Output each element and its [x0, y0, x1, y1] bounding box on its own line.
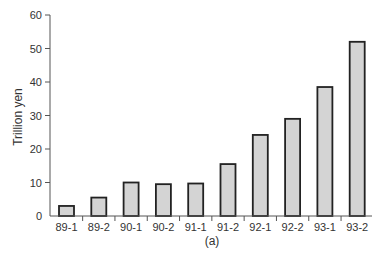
bar-92-1	[253, 135, 268, 216]
bar-90-2	[156, 184, 171, 216]
y-tick-label: 60	[30, 9, 42, 21]
bars	[59, 42, 365, 216]
bar-89-2	[91, 198, 106, 216]
x-axis: 89-189-290-190-291-191-292-192-293-193-2	[50, 216, 372, 233]
bar-89-1	[59, 206, 74, 216]
bar-90-1	[124, 183, 139, 217]
y-tick-label: 20	[30, 143, 42, 155]
bar-91-1	[188, 184, 203, 216]
y-axis-label: Trillion yen	[11, 88, 25, 146]
y-tick-label: 10	[30, 177, 42, 189]
x-tick-label: 93-2	[346, 221, 368, 233]
x-tick-label: 90-2	[152, 221, 174, 233]
x-tick-label: 92-1	[249, 221, 271, 233]
x-tick-label: 92-2	[282, 221, 304, 233]
x-tick-label: 89-1	[55, 221, 77, 233]
x-tick-label: 91-1	[185, 221, 207, 233]
x-tick-label: 89-2	[88, 221, 110, 233]
y-tick-label: 50	[30, 43, 42, 55]
x-tick-label: 93-1	[314, 221, 336, 233]
y-axis: 0102030405060	[30, 9, 50, 222]
bar-92-2	[285, 119, 300, 216]
x-tick-label: 90-1	[120, 221, 142, 233]
bar-chart: 0102030405060 89-189-290-190-291-191-292…	[0, 0, 389, 268]
chart-caption: (a)	[205, 234, 220, 248]
x-tick-label: 91-2	[217, 221, 239, 233]
y-tick-label: 30	[30, 110, 42, 122]
bar-91-2	[221, 164, 236, 216]
bar-93-1	[317, 87, 332, 216]
y-tick-label: 0	[36, 210, 42, 222]
y-tick-label: 40	[30, 76, 42, 88]
bar-93-2	[350, 42, 365, 216]
